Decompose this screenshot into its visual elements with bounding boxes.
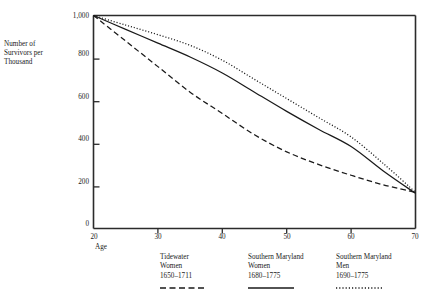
legend-label-line-2: Women (160, 262, 192, 271)
survivorship-chart: Number of Survivors per Thousand 0 200 4… (0, 0, 426, 298)
data-series-group (94, 16, 416, 194)
legend-entry-southern-maryland-men: Southern Maryland Men 1690–1775 (336, 253, 392, 281)
series-line-southern-maryland-men (94, 16, 416, 193)
legend-entry-tidewater-women: Tidewater Women 1650–1711 (160, 253, 192, 281)
legend-label-line-1: Southern Maryland (336, 253, 392, 262)
legend-label-line-3: 1650–1711 (160, 272, 192, 281)
legend-label-line-1: Southern Maryland (248, 253, 304, 262)
legend-label-line-3: 1690–1775 (336, 272, 392, 281)
legend-entry-southern-maryland-women: Southern Maryland Women 1680–1775 (248, 253, 304, 281)
legend-label-line-2: Men (336, 262, 392, 271)
legend-sample-solid (248, 285, 294, 291)
legend-sample-dotted (336, 285, 382, 291)
legend-label-line-1: Tidewater (160, 253, 192, 262)
legend-label-line-3: 1680–1775 (248, 272, 304, 281)
series-line-tidewater-women (94, 16, 416, 193)
axis-lines (94, 16, 416, 229)
legend-sample-dashed (160, 285, 206, 291)
series-line-southern-maryland-women (94, 16, 416, 194)
y-axis-ticks (94, 59, 100, 187)
legend-label-line-2: Women (248, 262, 304, 271)
